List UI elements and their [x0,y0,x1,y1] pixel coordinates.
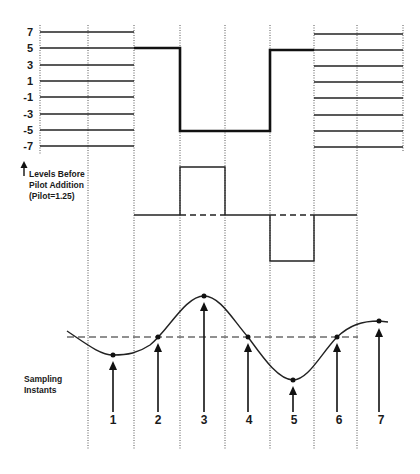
levels-caption-line1: Levels Before [29,169,85,179]
sample-points [111,294,382,383]
data-waveform [134,48,314,131]
sample-numbers: 1 2 3 4 5 6 7 [110,413,385,427]
sample-number-6: 6 [336,413,343,427]
sample-number-1: 1 [110,413,117,427]
sample-number-2: 2 [155,413,162,427]
levels-caption-line3: (Pilot=1.25) [29,191,75,201]
level-label-neg1: -1 [23,91,33,103]
levels-caption-arrowhead-icon [21,161,28,168]
sampling-caption-line1: Sampling [24,374,62,384]
sampling-caption-line2: Instants [24,385,57,395]
sample-number-3: 3 [201,413,208,427]
level-label-neg5: -5 [23,124,33,136]
level-label-5: 5 [27,42,33,54]
level-label-7: 7 [27,26,33,38]
left-level-lines [40,32,134,146]
pilot-tone-diagram: 7 5 3 1 -1 -3 -5 -7 Levels Before Pilot … [0,0,420,474]
arrowheads [109,302,383,395]
sampling-arrows [113,304,379,412]
level-label-3: 3 [27,59,33,71]
level-label-neg7: -7 [23,140,33,152]
sample-number-7: 7 [378,413,385,427]
vertical-grid-lines [40,25,403,449]
level-label-neg3: -3 [23,108,33,120]
level-label-1: 1 [27,75,33,87]
levels-caption-line2: Pilot Addition [29,180,84,190]
sample-number-5: 5 [291,413,298,427]
pilot-waveform [134,167,357,261]
sampling-caption: Sampling Instants [24,374,62,395]
level-labels: 7 5 3 1 -1 -3 -5 -7 [23,26,33,152]
sample-number-4: 4 [246,413,253,427]
levels-caption: Levels Before Pilot Addition (Pilot=1.25… [29,169,85,201]
right-level-lines [314,34,403,147]
